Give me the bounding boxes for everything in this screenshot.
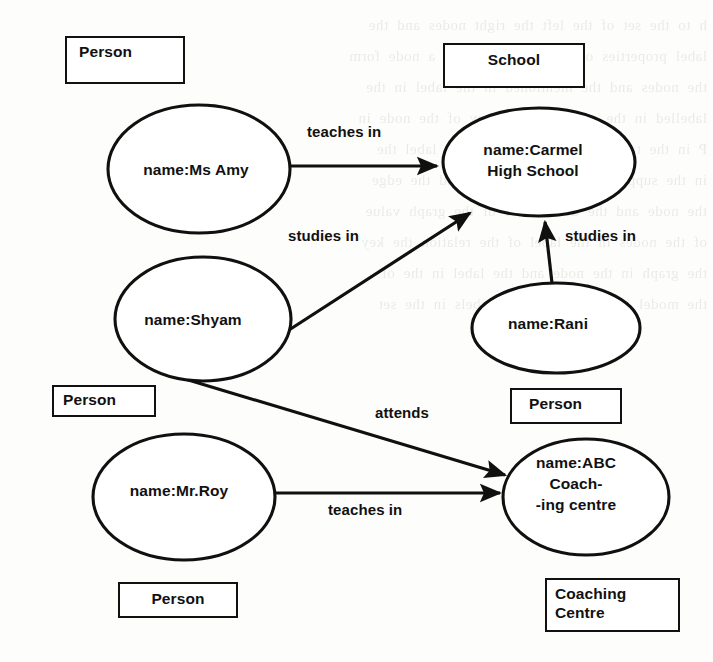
node-label-amy: name:Ms Amy — [143, 159, 249, 180]
diagram-canvas: h to the set of the left the right nodes… — [0, 0, 713, 662]
node-label-carmel-line-2: High School — [483, 160, 582, 181]
edge-label-teaches-in-amy: teaches in — [307, 123, 381, 140]
class-box-person-shyam[interactable]: Person — [52, 385, 156, 417]
class-box-coaching-centre-line-1: Coaching — [555, 584, 678, 603]
node-label-abc: name:ABC Coach- -ing centre — [536, 452, 616, 515]
node-label-rani: name:Rani — [508, 313, 588, 334]
edge-label-studies-in-rani: studies in — [565, 227, 636, 244]
class-box-person-roy-label: Person — [120, 589, 236, 608]
edge-label-studies-in-shyam: studies in — [288, 227, 359, 244]
class-box-person-roy[interactable]: Person — [118, 582, 238, 618]
class-box-person-amy-label: Person — [79, 42, 183, 61]
class-box-school-label: School — [445, 50, 583, 69]
class-box-person-shyam-label: Person — [63, 390, 154, 409]
class-box-coaching-centre-line-2: Centre — [555, 603, 678, 622]
node-label-shyam: name:Shyam — [144, 309, 241, 330]
node-label-rani-line-1: name:Rani — [508, 313, 588, 334]
class-box-coaching-centre[interactable]: Coaching Centre — [545, 578, 680, 632]
edge-label-teaches-in-roy: teaches in — [328, 501, 402, 518]
class-box-person-rani[interactable]: Person — [510, 388, 622, 424]
edge-label-attends-shyam: attends — [375, 404, 429, 421]
node-label-shyam-line-1: name:Shyam — [144, 309, 241, 330]
node-label-carmel: name:Carmel High School — [483, 139, 582, 181]
class-box-school[interactable]: School — [443, 43, 585, 88]
nodes-layer — [0, 0, 713, 662]
class-box-person-rani-label: Person — [529, 394, 620, 413]
node-label-roy: name:Mr.Roy — [130, 480, 228, 501]
node-label-abc-line-1: name:ABC — [536, 452, 616, 473]
class-box-person-amy[interactable]: Person — [65, 36, 185, 84]
node-label-carmel-line-1: name:Carmel — [483, 139, 582, 160]
node-label-roy-line-1: name:Mr.Roy — [130, 480, 228, 501]
node-label-amy-line-1: name:Ms Amy — [143, 159, 249, 180]
node-label-abc-line-2: Coach- — [536, 473, 616, 494]
node-label-abc-line-3: -ing centre — [536, 494, 616, 515]
